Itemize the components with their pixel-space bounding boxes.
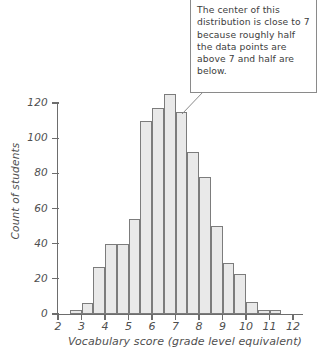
- histogram-bar: [223, 263, 235, 314]
- histogram-bar: [234, 274, 246, 314]
- chart-canvas: 020406080100120 23456789101112 Count of …: [0, 0, 327, 357]
- y-tick: [52, 278, 59, 279]
- x-tick-label: 10: [237, 320, 255, 333]
- histogram-bar: [70, 310, 82, 314]
- x-tick-label: 3: [73, 320, 91, 333]
- x-tick-label: 4: [96, 320, 114, 333]
- x-tick-label: 6: [143, 320, 161, 333]
- histogram-bar: [164, 94, 176, 314]
- histogram-bar: [246, 302, 258, 314]
- histogram-bar: [211, 226, 223, 314]
- histogram-bar: [105, 244, 117, 314]
- y-axis-title: Count of students: [9, 131, 21, 251]
- x-tick-label: 7: [167, 320, 185, 333]
- histogram-bar: [129, 219, 141, 314]
- histogram-bar: [93, 267, 105, 314]
- histogram-bar: [82, 303, 94, 314]
- histogram-bar: [176, 112, 188, 314]
- histogram-bar: [140, 121, 152, 314]
- x-tick-label: 12: [284, 320, 302, 333]
- histogram-bar: [117, 244, 129, 314]
- y-tick-label: 20: [14, 272, 48, 284]
- histogram-bar: [199, 177, 211, 314]
- y-tick: [52, 138, 59, 139]
- y-tick: [52, 208, 59, 209]
- x-tick-label: 8: [190, 320, 208, 333]
- x-tick-label: 9: [214, 320, 232, 333]
- histogram-bar: [258, 310, 270, 314]
- histogram-bar: [187, 152, 199, 314]
- y-tick-label: 120: [14, 96, 48, 108]
- x-tick-label: 5: [120, 320, 138, 333]
- histogram-bar: [152, 108, 164, 314]
- x-axis-title: Vocabulary score (grade level equivalent…: [45, 335, 325, 348]
- y-tick: [52, 243, 59, 244]
- x-tick-label: 11: [261, 320, 279, 333]
- y-tick-label: 0: [14, 307, 48, 319]
- histogram-bar: [270, 310, 282, 314]
- x-tick-label: 2: [49, 320, 67, 333]
- y-tick: [52, 173, 59, 174]
- y-tick: [52, 102, 59, 103]
- annotation-callout: The center of this distribution is close…: [190, 0, 317, 93]
- annotation-callout-text: The center of this distribution is close…: [197, 4, 310, 76]
